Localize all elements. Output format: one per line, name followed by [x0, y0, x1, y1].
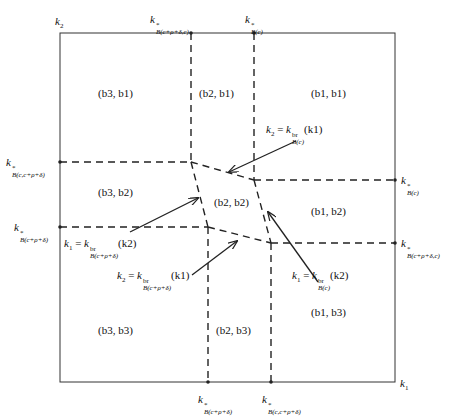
region-b2-b1: (b2, b1)	[199, 87, 234, 99]
tick-top-left: k*B(c+ρ+δ,c)	[150, 14, 189, 35]
tick-bottom-left: k*B(c+ρ+δ)	[198, 394, 232, 415]
tick-bottom-right: k*B(c,c+ρ+δ)	[262, 394, 301, 415]
region-b1-b2: (b1, b2)	[311, 205, 346, 217]
arrow-br-c-k1	[229, 141, 296, 172]
annotation-br-c-k1: k2 = kbrB(c)(k1)	[266, 124, 322, 145]
tick-top-right: k*B(c)	[245, 14, 263, 35]
arrow-br-crd-k1	[192, 241, 237, 275]
region-b1-b1: (b1, b1)	[311, 87, 346, 99]
tick-left-bottom: k*B(c+ρ+δ)	[14, 222, 48, 243]
region-b3-b3: (b3, b3)	[98, 324, 133, 336]
annotation-br-crd-k2: k1 = kbrB(c+ρ+δ)(k2)	[64, 238, 136, 259]
arrow-br-crd-k2	[130, 198, 198, 232]
x-axis-label: k1	[400, 378, 408, 392]
tick-right-bottom: k*B(c+ρ+δ,c)	[401, 238, 440, 259]
y-axis-label: k2	[55, 16, 63, 30]
region-b2-b3: (b2, b3)	[216, 324, 251, 336]
region-b1-b3: (b1, b3)	[311, 306, 346, 318]
region-b3-b2: (b3, b2)	[98, 186, 133, 198]
tick-left-top: k*B(c,c+ρ+δ)	[6, 157, 45, 178]
annotation-br-crd-k1: k2 = kbrB(c+ρ+δ)(k1)	[117, 270, 189, 291]
region-b3-b1: (b3, b1)	[98, 87, 133, 99]
region-b2-b2: (b2, b2)	[214, 196, 249, 208]
tick-right-top: k*B(c)	[401, 175, 419, 196]
diagram-canvas	[0, 0, 455, 417]
annotation-br-c-k2: k1 = kbrB(c)(k2)	[292, 270, 348, 291]
